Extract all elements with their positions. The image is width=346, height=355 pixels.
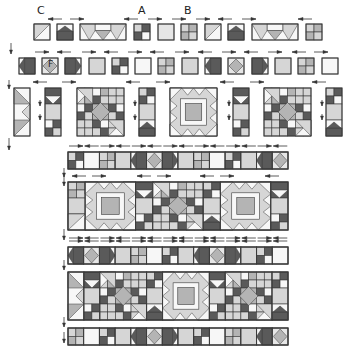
fourpatch-dark-unit [68,152,84,169]
pressing-arrow-right-icon [226,236,240,239]
strip-house-col-unit [271,182,288,230]
pressing-arrow-right-icon [132,239,146,242]
pressing-arrow-vertical-icon [134,114,137,120]
pressing-arrow-left-icon [148,239,162,242]
pressing-arrow-vertical-icon [63,175,66,186]
strip-house-col-unit [209,272,225,320]
diamond-unit [228,58,244,74]
house-unit [57,24,73,40]
pressing-arrow-left-icon [218,17,232,20]
pressing-arrow-left-icon [116,236,130,239]
block-pinwheel-unit [264,88,311,136]
strip-house-up-col-unit [147,272,163,320]
plain-medium-unit [178,247,194,264]
pressing-arrow-vertical-icon [321,100,324,106]
plain-medium-unit [115,328,131,345]
fourpatch-light-unit [99,152,115,169]
pressing-arrow-left-icon [148,236,162,239]
pressing-arrow-left-icon [33,80,47,83]
block-pinwheel-unit [225,272,272,320]
pressing-arrow-right-icon [82,50,96,53]
pressing-arrow-right-icon [172,17,186,20]
flyrow-unit [80,24,126,40]
pressing-arrow-right-icon [128,50,142,53]
pressing-arrow-left-icon [137,174,151,177]
pressing-arrow-left-icon [244,50,258,53]
block-star-unit [85,182,135,230]
pressing-arrow-right-icon [92,174,106,177]
fourpatch-dark-unit [99,328,115,345]
pressing-arrow-left-icon [150,50,164,53]
unit-label-f: F [48,60,53,69]
strip-house-col-unit [136,182,153,230]
fourpatch-light-unit [306,24,322,40]
fourpatch-light-unit [298,58,314,74]
plain-medium-unit [115,152,131,169]
pressing-arrow-right-icon [69,236,83,239]
pressing-arrow-right-icon [242,17,256,20]
pressing-arrow-vertical-icon [63,317,66,327]
plain-medium-unit [241,152,257,169]
pressing-arrow-left-icon [148,144,162,147]
diamond-unit [84,247,100,264]
pressing-arrow-vertical-icon [8,138,11,150]
pressing-arrow-right-icon [69,144,83,147]
pressing-arrow-vertical-icon [321,114,324,120]
fourpatch-light-unit [68,328,84,345]
pressing-arrow-right-icon [258,236,272,239]
pressing-arrow-vertical-icon [228,100,231,106]
plain-medium-unit [89,58,105,74]
plain-medium-unit [182,58,198,74]
pressing-arrow-left-icon [85,236,99,239]
pressing-arrow-vertical-icon [228,114,231,120]
pressing-arrow-right-icon [70,17,84,20]
pressing-arrow-right-icon [220,174,234,177]
pressing-arrow-left-icon [210,144,224,147]
pressing-arrow-right-icon [226,239,240,242]
pressing-arrow-left-icon [273,239,287,242]
block-pinwheel-unit [153,182,203,230]
pressing-arrow-right-icon [195,239,209,242]
block-pinwheel-unit [100,272,147,320]
strip-hst-col-unit [14,88,30,136]
pressing-arrow-left-icon [48,17,62,20]
arrow-left-dark-unit [257,328,273,345]
fourpatch-light-unit [225,328,241,345]
pressing-arrow-left-icon [116,239,130,242]
strip-house-up-col-unit [203,182,220,230]
quilt-assembly-diagram: CABF [0,0,346,355]
arrow-right-dark-unit [225,247,241,264]
arrow-right-dark-unit [162,152,178,169]
pressing-arrow-right-icon [62,80,76,83]
pressing-arrow-left-icon [72,174,86,177]
pressing-arrow-left-icon [273,144,287,147]
arrow-right-dark-unit [99,247,115,264]
plain-white-unit [322,58,338,74]
hst-unit [205,24,221,40]
pressing-arrow-right-icon [148,17,162,20]
arrow-left-dark-unit [194,247,210,264]
plain-white-unit [209,328,225,345]
pressing-arrow-left-icon [85,144,99,147]
pressing-arrow-left-icon [198,50,212,53]
plain-white-unit [84,152,100,169]
fourpatch-dark-unit [134,24,150,40]
plain-white-unit [272,247,288,264]
pressing-arrow-left-icon [85,239,99,242]
pressing-arrow-vertical-icon [134,100,137,106]
pressing-arrow-vertical-icon [39,114,42,120]
block-star-unit [220,182,270,230]
pressing-arrow-right-icon [195,144,209,147]
arrow-left-dark-unit [205,58,221,74]
pressing-arrow-left-icon [242,144,256,147]
diamond-unit [272,152,288,169]
diagram-canvas [0,0,346,355]
arrow-right-dark-unit [252,58,268,74]
pressing-arrow-left-icon [242,239,256,242]
pressing-arrow-vertical-icon [10,43,13,54]
pressing-arrow-right-icon [156,80,170,83]
pressing-arrow-left-icon [57,50,71,53]
strip-hst-col-unit [68,272,84,320]
pressing-arrow-vertical-icon [63,332,66,343]
arrow-left-dark-unit [257,152,273,169]
